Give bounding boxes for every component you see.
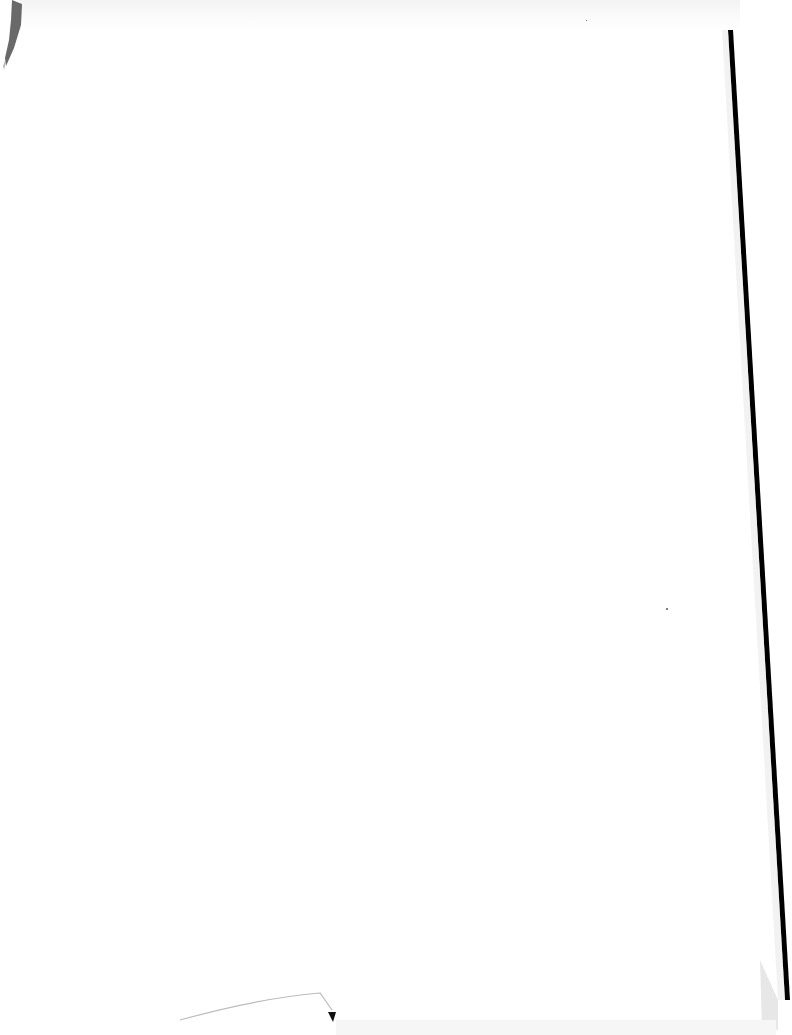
top-left-smudge bbox=[0, 0, 30, 70]
scanned-page bbox=[0, 0, 792, 1035]
right-edge-shadow bbox=[0, 0, 792, 1035]
speck bbox=[586, 20, 587, 21]
speck bbox=[666, 608, 668, 610]
top-edge-shade bbox=[20, 0, 740, 30]
bottom-paper-curl bbox=[0, 0, 792, 1035]
